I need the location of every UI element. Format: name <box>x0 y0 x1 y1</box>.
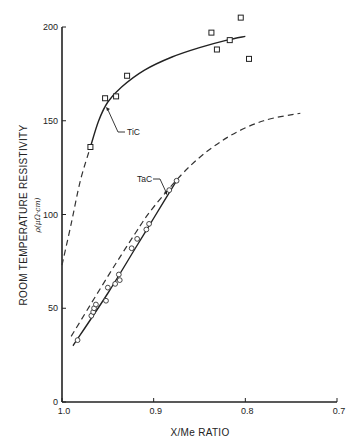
x-tick-label: 0.8 <box>241 406 254 416</box>
y-tick-label: 150 <box>43 116 58 126</box>
circle-marker <box>135 236 140 241</box>
circle-marker <box>104 298 109 303</box>
x-tick-label: 0.9 <box>149 406 162 416</box>
axes: 0501001502001.00.90.80.7 <box>43 22 345 416</box>
tic-dashed-curve <box>62 147 90 265</box>
tac-leader-line <box>153 179 166 192</box>
square-marker <box>227 38 232 43</box>
square-marker <box>238 15 243 20</box>
circle-marker <box>113 281 118 286</box>
tac-solid-curve <box>73 181 177 346</box>
y-tick-label: 50 <box>48 303 58 313</box>
y-tick-label: 100 <box>43 210 58 220</box>
square-marker <box>125 73 130 78</box>
resistivity-chart: 0501001502001.00.90.80.7 X/Me RATIO ROOM… <box>0 0 354 445</box>
square-marker <box>114 94 119 99</box>
square-marker <box>103 96 108 101</box>
tac-label: TaC <box>137 174 152 184</box>
circle-marker <box>147 221 152 226</box>
circle-marker <box>129 246 134 251</box>
circle-marker <box>75 338 80 343</box>
x-tick-label: 1.0 <box>58 406 71 416</box>
tic-label: TiC <box>127 127 140 137</box>
tic-leader-line <box>108 110 125 132</box>
series-layer <box>62 15 300 346</box>
circle-marker <box>116 272 121 277</box>
square-marker <box>209 30 214 35</box>
square-marker <box>214 47 219 52</box>
circle-marker <box>174 178 179 183</box>
x-tick-label: 0.7 <box>333 406 346 416</box>
circle-marker <box>94 302 99 307</box>
circle-marker <box>144 227 149 232</box>
circle-marker <box>105 285 110 290</box>
y-axis-title: ROOM TEMPERATURE RESISTIVITY <box>18 125 29 306</box>
circle-marker <box>117 278 122 283</box>
tac-series <box>71 113 300 346</box>
x-axis-title: X/Me RATIO <box>171 427 230 438</box>
y-tick-label: 200 <box>43 22 58 32</box>
y-axis-units: ρ(μΩ·cm) <box>33 197 42 233</box>
tic-solid-curve <box>90 36 245 147</box>
circle-marker <box>167 188 172 193</box>
square-marker <box>88 145 93 150</box>
square-marker <box>247 56 252 61</box>
